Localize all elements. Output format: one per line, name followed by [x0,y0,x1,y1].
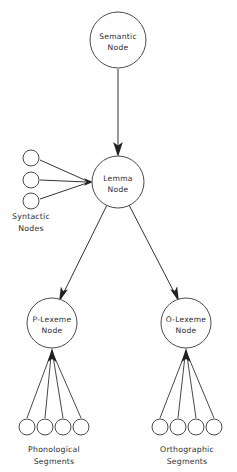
edge-lemma-to-o-lexeme [129,205,179,302]
lemma-node-label-line1: Lemma [103,174,132,183]
edge-syntactic-to-lemma [40,160,93,199]
edge-semantic-to-lemma [113,69,123,157]
label-syntactic-nodes: Syntactic Nodes [12,212,50,233]
o-lexeme-node-label-line1: O-Lexeme [166,315,207,324]
node-p-lexeme: P-Lexeme Node [27,298,77,348]
phonological-segment-circle [37,419,53,435]
orthographic-segment-circle [152,419,168,435]
o-lexeme-node-label-line2: Node [176,326,197,335]
phonological-segment-circle [19,419,35,435]
orthographic-segment-circle [188,419,204,435]
edge-lemma-to-p-lexeme [59,205,107,302]
syntactic-nodes-label-line2: Nodes [18,224,43,233]
lexical-network-diagram: Semantic Node Lemma Node P-Lexeme Node O… [0,0,237,472]
semantic-node-label-line1: Semantic [99,32,137,41]
node-lemma: Lemma Node [92,156,144,208]
phonological-segment-circle [73,419,89,435]
phonological-segments-group [19,419,89,435]
syntactic-circle [23,193,39,209]
orthographic-segment-circle [206,419,222,435]
label-phonological-segments: Phonological Segments [28,445,80,466]
syntactic-nodes-label-line1: Syntactic [12,212,50,221]
lemma-node-label-line2: Node [108,185,129,194]
p-lexeme-node-label-line2: Node [42,326,63,335]
syntactic-circle [23,172,39,188]
label-orthographic-segments: Orthographic Segments [160,445,214,466]
diagram-canvas: Semantic Node Lemma Node P-Lexeme Node O… [0,0,237,472]
edge-orthographic-to-o-lexeme [160,348,214,418]
syntactic-circle [23,150,39,166]
orthographic-segment-circle [170,419,186,435]
node-semantic: Semantic Node [90,12,146,68]
node-o-lexeme: O-Lexeme Node [161,298,211,348]
semantic-node-label-line2: Node [108,43,129,52]
orthographic-segments-group [152,419,222,435]
orthographic-segments-label-line1: Orthographic [160,445,214,454]
syntactic-nodes-group [23,150,39,209]
phonological-segments-label-line2: Segments [34,457,75,466]
phonological-segment-circle [55,419,71,435]
p-lexeme-node-label-line1: P-Lexeme [33,315,72,324]
phonological-segments-label-line1: Phonological [28,445,80,454]
edge-phonological-to-p-lexeme [27,348,81,418]
orthographic-segments-label-line2: Segments [167,457,208,466]
